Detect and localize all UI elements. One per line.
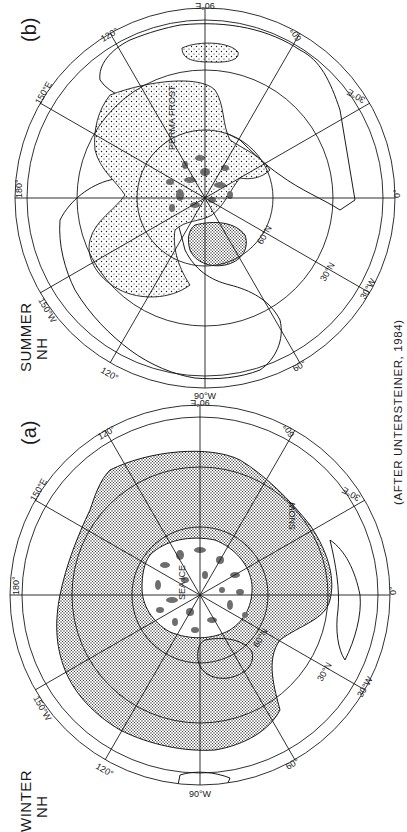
snow-label: SNOW — [287, 501, 297, 530]
winter-graticule — [10, 405, 390, 785]
lon-30w-label: 30°W — [358, 276, 378, 301]
summer-lat-labels: 60°N 30°N — [255, 224, 337, 283]
lon-90w-label: 90°W — [189, 789, 212, 799]
land-east — [330, 540, 360, 660]
lon-180-label: 180° — [11, 576, 21, 595]
lon-150w-label: 150°W — [31, 694, 53, 723]
polar-maps-figure: 90°E 60° 30°E 0° 30°W 60° 90°W 120° 150°… — [0, 0, 407, 832]
panel-a-tag: (a) — [18, 421, 41, 445]
summer-graticule — [15, 8, 395, 388]
lat-60n-label: 60°N — [255, 224, 274, 246]
lon-90e-label: 90°E — [195, 1, 215, 11]
panel-b-tag: (b) — [18, 18, 41, 42]
lon-30e-label: 30°E — [345, 87, 367, 105]
summer-map: 90°E 60° 30°E 0° 30°W 60° 90°W 120° 150°… — [14, 1, 402, 401]
lon-120-label: 120° — [99, 26, 120, 44]
lon-30w-label: 30°W — [355, 674, 375, 699]
lon-90e-label: 90°E — [190, 398, 210, 408]
summer-hemisphere: NH — [34, 302, 50, 372]
winter-title: WINTER — [18, 770, 34, 832]
permafrost-region-2 — [182, 43, 238, 62]
greenland — [188, 222, 246, 265]
land-south — [178, 772, 230, 791]
source-credit: (AFTER UNTERSTEINER, 1984) — [392, 319, 404, 505]
lon-180-label: 180° — [14, 179, 24, 198]
lat-30n-label: 30°N — [315, 661, 334, 683]
permafrost-label: PERMA FROST — [167, 85, 177, 150]
summer-title: SUMMER — [18, 302, 34, 372]
maps-svg: 90°E 60° 30°E 0° 30°W 60° 90°W 120° 150°… — [0, 0, 407, 832]
winter-season-label: WINTER NH — [18, 770, 50, 832]
lon-120w-label: 120° — [99, 365, 120, 383]
lon-150e-label: 150°E — [33, 80, 54, 106]
winter-hemisphere: NH — [34, 770, 50, 832]
lon-150e-label: 150°E — [28, 477, 49, 503]
summer-season-label: SUMMER NH — [18, 302, 50, 372]
sea-ice-label: SEA ICE — [177, 565, 187, 600]
lon-0-label: 0° — [388, 586, 398, 595]
lon-30e-label: 30°E — [340, 485, 362, 503]
lon-60w-label: 60° — [291, 358, 308, 374]
winter-map: 90°E 60° 30°E 0° 30°W 60° 90°W 120° 150°… — [10, 398, 398, 799]
lon-60w-label: 60° — [284, 756, 301, 772]
lon-0-label: 0° — [392, 189, 402, 198]
